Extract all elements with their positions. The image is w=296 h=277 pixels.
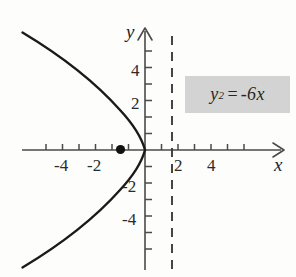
x-tick-label-pos4: 4 [207,157,216,174]
x-tick-label-neg2: -2 [87,157,101,174]
focus-point-marker [116,145,125,154]
y-tick-label-pos4: 4 [131,62,140,79]
x-axis-label: x [274,155,282,174]
plot-canvas [0,0,296,277]
x-tick-label-pos2: 2 [174,157,183,174]
equation-lhs: y [210,84,218,105]
parabola-figure: -4 -2 2 4 4 2 -2 -4 y x y2=-6x [0,0,296,277]
y-tick-label-neg2: -2 [122,178,136,195]
y-tick-label-pos2: 2 [131,95,140,112]
x-tick-label-neg4: -4 [54,157,68,174]
equation-label-text: y2=-6x [185,76,290,113]
equation-rhs: -6x [241,84,265,105]
y-axis-label: y [126,22,134,41]
equation-operator: = [224,84,240,105]
y-tick-label-neg4: -4 [122,211,136,228]
